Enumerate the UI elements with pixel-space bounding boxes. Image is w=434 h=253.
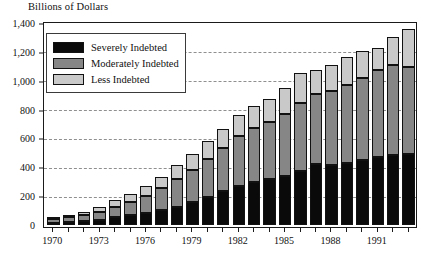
bar-segment [186, 202, 198, 225]
bar-segment [217, 191, 229, 225]
bar-segment [248, 106, 260, 128]
x-axis-tick-label: 1988 [320, 235, 340, 246]
legend-item: Severely Indebted [53, 39, 178, 55]
bar-segment [63, 217, 75, 221]
bar-segment [248, 182, 260, 225]
y-axis-tick-label: 600 [20, 134, 35, 144]
bar-segment [233, 186, 245, 226]
x-axis-tick-mark [315, 228, 316, 232]
bar-segment [78, 215, 90, 221]
x-axis-tick-mark [160, 228, 161, 232]
x-axis-tick-mark [52, 228, 53, 232]
bar [325, 23, 337, 226]
chart-figure: Billions of Dollars 02004006008001,0001,… [0, 0, 434, 253]
x-axis-tick-mark [269, 228, 270, 232]
bar-segment [109, 207, 121, 218]
bar-segment [341, 57, 353, 85]
x-axis-tick-mark [83, 228, 84, 232]
bar-segment [387, 65, 399, 155]
x-axis: 19701973197619791982198519881991 [43, 228, 417, 253]
x-axis-tick-label: 1973 [89, 235, 109, 246]
x-axis-tick-mark [68, 228, 69, 232]
bar-segment [202, 197, 214, 225]
bar-segment [279, 114, 291, 176]
bar [233, 23, 245, 226]
bar [387, 23, 399, 226]
bar-segment [279, 176, 291, 225]
x-axis-tick-mark [330, 228, 331, 232]
bar-segment [310, 70, 322, 95]
bar-segment [356, 160, 368, 226]
bar-segment [279, 88, 291, 114]
x-axis-tick-label: 1982 [228, 235, 248, 246]
bar-segment [155, 177, 167, 189]
bar-segment [372, 157, 384, 225]
bar-segment [294, 103, 306, 171]
bar-segment [78, 221, 90, 225]
bar-segment [47, 217, 59, 219]
x-axis-tick-mark [222, 228, 223, 232]
legend-item-label: Less Indebted [91, 74, 150, 85]
y-axis-tick-label: 800 [20, 106, 35, 116]
bar [248, 23, 260, 226]
bar-segment [202, 159, 214, 197]
x-axis-tick-mark [130, 228, 131, 232]
bar-segment [171, 165, 183, 179]
bar-segment [47, 223, 59, 226]
bar-segment [171, 179, 183, 207]
bar-segment [248, 128, 260, 182]
bar-segment [263, 122, 275, 179]
bar-segment [140, 186, 152, 195]
bar-segment [140, 213, 152, 225]
y-axis-tick-label: 200 [20, 192, 35, 202]
bar [402, 23, 414, 226]
x-axis-tick-mark [191, 228, 192, 232]
y-axis-tick-label: 1,000 [13, 77, 36, 87]
bar-segment [325, 165, 337, 226]
bar [279, 23, 291, 226]
bar-segment [140, 196, 152, 213]
x-axis-tick-label: 1976 [135, 235, 155, 246]
x-axis-tick-mark [253, 228, 254, 232]
bar-segment [356, 51, 368, 78]
legend-item-label: Moderately Indebted [91, 58, 179, 69]
bar-segment [124, 194, 136, 202]
bar [341, 23, 353, 226]
x-axis-tick-mark [207, 228, 208, 232]
bar-segment [341, 85, 353, 163]
x-axis-tick-mark [99, 228, 100, 232]
bar-segment [233, 136, 245, 185]
bar [217, 23, 229, 226]
bar-segment [93, 220, 105, 226]
y-axis-tick-label: 1,400 [13, 19, 36, 29]
bar [186, 23, 198, 226]
legend-item: Less Indebted [53, 71, 178, 87]
bar-segment [341, 163, 353, 225]
y-axis-tick-label: 1,200 [13, 48, 36, 58]
bar-segment [402, 154, 414, 225]
legend-item: Moderately Indebted [53, 55, 178, 71]
bar-segment [171, 207, 183, 226]
bar [372, 23, 384, 226]
x-axis-tick-mark [238, 228, 239, 232]
x-axis-tick-mark [300, 228, 301, 232]
bar-segment [63, 222, 75, 226]
bar-segment [63, 215, 75, 218]
bar-segment [155, 188, 167, 210]
axis-title: Billions of Dollars [28, 1, 108, 12]
y-axis-tick-label: 0 [30, 221, 35, 231]
bar-segment [124, 215, 136, 225]
y-axis-tick-label: 400 [20, 163, 35, 173]
y-axis: 02004006008001,0001,2001,400 [0, 22, 43, 228]
bar-segment [310, 94, 322, 164]
bar-segment [310, 164, 322, 226]
legend-item-label: Severely Indebted [91, 42, 167, 53]
x-axis-tick-mark [361, 228, 362, 232]
bar-segment [263, 99, 275, 122]
x-axis-tick-mark [408, 228, 409, 232]
x-axis-tick-mark [176, 228, 177, 232]
x-axis-tick-label: 1985 [274, 235, 294, 246]
bar-segment [155, 210, 167, 225]
bar [202, 23, 214, 226]
bar-segment [387, 155, 399, 225]
